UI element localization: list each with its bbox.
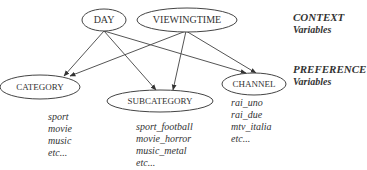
channel-values: rai_uno rai_due mtv_italia etc...	[231, 97, 272, 144]
edge-day-category	[64, 31, 104, 76]
node-viewingtime-label: VIEWINGTIME	[153, 14, 221, 25]
category-value: movie	[48, 123, 72, 134]
subcategory-value: movie_horror	[136, 133, 191, 144]
channel-value: mtv_italia	[231, 121, 272, 132]
edge-day-channel	[104, 31, 246, 73]
node-day-label: DAY	[94, 14, 115, 25]
node-category: CATEGORY	[0, 75, 80, 99]
edge-viewingtime-subcategory	[173, 31, 186, 90]
category-value: sport	[48, 111, 69, 122]
category-value: music	[48, 135, 72, 146]
node-category-label: CATEGORY	[16, 82, 64, 92]
edge-day-subcategory	[104, 31, 156, 90]
subcategory-value: sport_football	[136, 121, 193, 132]
legend-preference-title: PREFERENCE	[293, 63, 366, 75]
subcategory-values: sport_football movie_horror music_metal …	[136, 121, 193, 168]
node-channel: CHANNEL	[222, 73, 286, 95]
category-value: etc...	[48, 147, 67, 158]
legend-preference: PREFERENCE Variables	[293, 63, 366, 87]
node-subcategory: SUBCATEGORY	[107, 90, 213, 112]
legend-context: CONTEXT Variables	[293, 11, 346, 35]
node-viewingtime: VIEWINGTIME	[137, 8, 237, 32]
edge-viewingtime-channel	[186, 31, 256, 73]
node-channel-label: CHANNEL	[233, 79, 276, 89]
category-values: sport movie music etc...	[48, 111, 72, 158]
legend-context-title: CONTEXT	[293, 11, 346, 23]
node-day: DAY	[82, 9, 126, 31]
channel-value: rai_uno	[231, 97, 263, 108]
subcategory-value: etc...	[136, 157, 155, 168]
legend-preference-subtitle: Variables	[293, 76, 331, 87]
channel-value: etc...	[231, 133, 250, 144]
node-subcategory-label: SUBCATEGORY	[127, 96, 193, 106]
channel-value: rai_due	[231, 109, 263, 120]
context-preference-diagram: DAY VIEWINGTIME CATEGORY SUBCATEGORY CHA…	[0, 0, 367, 170]
legend-context-subtitle: Variables	[293, 24, 331, 35]
subcategory-value: music_metal	[136, 145, 187, 156]
